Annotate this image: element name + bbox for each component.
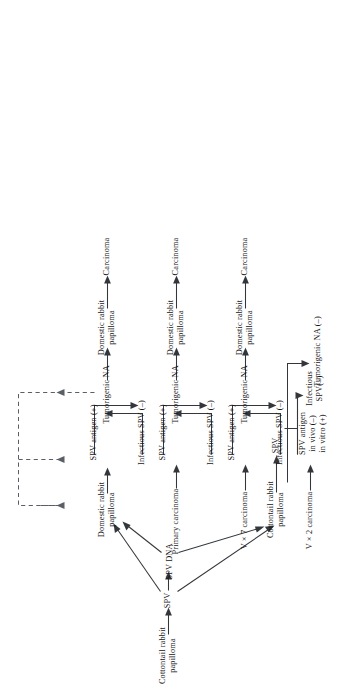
dashed-connector-r1tna-to-r2source (56, 389, 94, 396)
dashed-spine-vertical (18, 392, 62, 505)
node-r2-spv-antigen: SPV antigen (+) (158, 404, 168, 460)
node-r2-infectious-spv: Infectious SPV (–) (206, 400, 216, 465)
arrow-spv-to-domestic-papilloma (113, 523, 160, 591)
node-r1-tumorigenic-na: Tumorigenic NA (102, 365, 112, 424)
arrow-r3-source-to-antigen (242, 464, 249, 490)
node-origin-cottontail-papilloma: Cottontail rabbit papilloma (158, 626, 178, 683)
node-r1-infectious-spv: Infectious SPV (–) (137, 400, 147, 465)
node-r0-cottontail-papilloma: Cottontail rabbit papilloma (266, 480, 286, 537)
node-spv: SPV (163, 592, 173, 608)
node-r4-vx2-carcinoma: V × 2 carcinoma (305, 491, 315, 549)
node-r2-carcinoma: Carcinoma (171, 237, 181, 275)
node-r4-spv-antigen: SPV antigen in vivo (–) in vitro (+) (297, 411, 326, 454)
node-r2-domestic-papilloma: Domestic rabbit papilloma (166, 299, 186, 354)
node-r1-domestic-papilloma-2: Domestic rabbit papilloma (97, 299, 117, 354)
node-r3-domestic-papilloma: Domestic rabbit papilloma (235, 299, 255, 354)
bracket-r4-antigen-to-infectious (284, 395, 297, 454)
node-r3-spv-antigen: SPV antigen (+) (227, 404, 237, 460)
dashed-connector-spine-to-r4source (40, 502, 64, 509)
node-r3-infectious-spv: Infectious SPV (–) (275, 400, 285, 465)
node-r1-domestic-papilloma: Domestic rabbit papilloma (97, 481, 117, 536)
arrow-spv-to-cottontail-papilloma (177, 525, 274, 591)
node-r1-spv-antigen: SPV antigen (+) (89, 404, 99, 460)
node-r2-primary-carcinoma: Primary carcinoma (171, 488, 181, 554)
arrow-spvdna-to-domestic-papilloma (122, 521, 161, 552)
dashed-connector-spine-to-r3source (18, 456, 64, 463)
node-r2-tumorigenic-na: Tumorigenic NA (171, 365, 181, 424)
bracket-r1-to-tumorigenic-na (94, 402, 142, 454)
node-r4-tumorigenic-na: Tumorigenic NA (–) (313, 316, 323, 387)
node-r3-tumorigenic-na: Tumorigenic NA (240, 365, 250, 424)
arrow-spvdna-to-cottontail-papilloma (178, 526, 264, 552)
node-r3-vx7-carcinoma: V × 7 carcinoma (240, 491, 250, 549)
node-r3-carcinoma: Carcinoma (240, 237, 250, 275)
arrow-r2-source-to-antigen-2 (173, 464, 180, 488)
arrow-r4-source-to-antigen (307, 464, 314, 490)
bracket-r2-to-tumorigenic-na (163, 402, 211, 454)
node-r1-carcinoma: Carcinoma (102, 237, 112, 275)
